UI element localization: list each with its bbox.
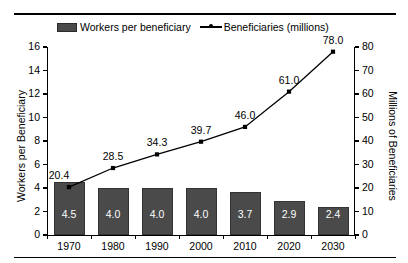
x-tick-label: 1990 bbox=[134, 240, 180, 252]
line-point-marker bbox=[155, 152, 159, 156]
line-series-path bbox=[69, 52, 333, 187]
x-tick-label: 1980 bbox=[90, 240, 136, 252]
line-point-label: 39.7 bbox=[181, 124, 221, 136]
x-tick-label: 2000 bbox=[178, 240, 224, 252]
line-point-label: 46.0 bbox=[225, 109, 265, 121]
line-point-label: 78.0 bbox=[313, 34, 353, 46]
line-series-markers bbox=[67, 50, 335, 190]
x-tick-label: 2030 bbox=[310, 240, 356, 252]
line-point-label: 61.0 bbox=[269, 74, 309, 86]
line-point-marker bbox=[67, 185, 71, 189]
line-point-marker bbox=[199, 140, 203, 144]
x-tick-label: 2020 bbox=[266, 240, 312, 252]
line-point-label: 28.5 bbox=[93, 150, 133, 162]
line-point-marker bbox=[111, 166, 115, 170]
line-point-label: 20.4 bbox=[39, 169, 79, 181]
line-point-label: 34.3 bbox=[137, 136, 177, 148]
chart-figure: Workers per beneficiary Beneficiaries (m… bbox=[0, 0, 408, 263]
x-tick-label: 2010 bbox=[222, 240, 268, 252]
line-point-marker bbox=[287, 90, 291, 94]
line-point-marker bbox=[331, 50, 335, 54]
line-point-marker bbox=[243, 125, 247, 129]
x-tick-label: 1970 bbox=[46, 240, 92, 252]
